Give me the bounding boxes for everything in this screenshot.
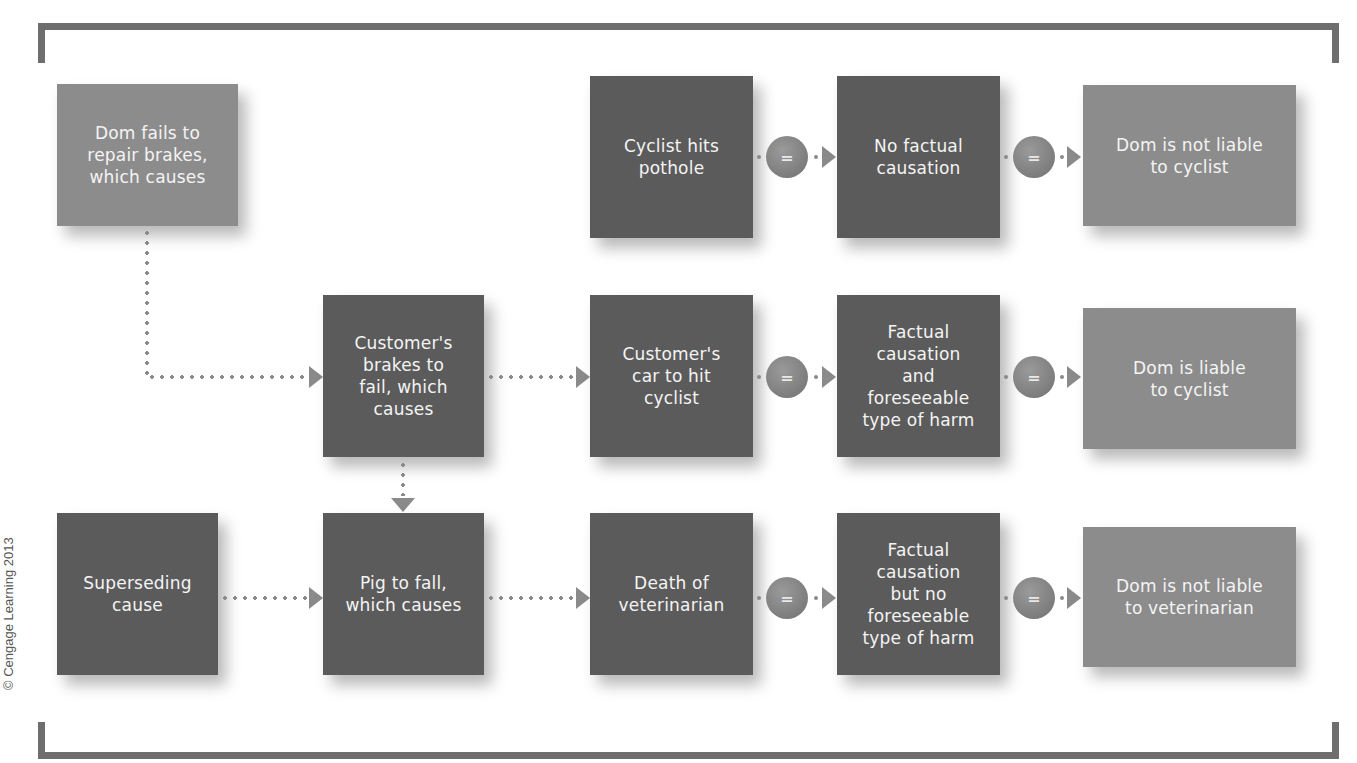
box-no-factual-causation: No factual causation (837, 76, 1000, 238)
connector-dot (814, 375, 818, 379)
connector-dot (814, 155, 818, 159)
box-label: Death of veterinarian (611, 572, 733, 616)
box-label: Dom is not liable to veterinarian (1108, 575, 1271, 619)
frame-bottom-right-corner (1332, 722, 1339, 759)
frame-bottom-bar (38, 752, 1339, 759)
frame-bottom-left-corner (38, 722, 45, 759)
box-cyclist-hits-pothole: Cyclist hits pothole (590, 76, 753, 238)
equals-icon: = (766, 356, 808, 398)
connector-brakes-to-car (486, 375, 574, 379)
box-customers-brakes-fail: Customer's brakes to fail, which causes (323, 295, 484, 457)
connector-dot (757, 375, 761, 379)
connector-dot (814, 596, 818, 600)
box-label: Cyclist hits pothole (616, 135, 727, 179)
connector-dot (1060, 596, 1064, 600)
equals-icon: = (1013, 136, 1055, 178)
box-label: Dom is liable to cyclist (1125, 357, 1254, 401)
box-dom-not-liable-cyclist: Dom is not liable to cyclist (1083, 85, 1296, 226)
connector-dot (757, 596, 761, 600)
box-factual-but-not-foreseeable: Factual causation but no foreseeable typ… (837, 513, 1000, 675)
connector-pig-to-death (486, 596, 574, 600)
box-label: Pig to fall, which causes (337, 572, 469, 616)
box-dom-not-liable-veterinarian: Dom is not liable to veterinarian (1083, 527, 1296, 667)
box-label: Dom is not liable to cyclist (1108, 134, 1271, 178)
arrow-right-icon (309, 366, 323, 388)
box-superseding-cause: Superseding cause (57, 513, 218, 675)
box-label: Factual causation but no foreseeable typ… (854, 539, 982, 649)
connector-superseding-to-pig (220, 596, 308, 600)
box-death-of-veterinarian: Death of veterinarian (590, 513, 753, 675)
arrow-down-icon (391, 498, 415, 512)
arrow-right-icon (822, 366, 836, 388)
box-label: Customer's car to hit cyclist (614, 343, 728, 409)
equals-icon: = (1013, 577, 1055, 619)
copyright-notice: © Cengage Learning 2013 (1, 537, 16, 690)
connector-dot (1004, 375, 1008, 379)
box-factual-and-foreseeable: Factual causation and foreseeable type o… (837, 295, 1000, 457)
arrow-right-icon (822, 146, 836, 168)
box-label: Dom fails to repair brakes, which causes (79, 122, 215, 188)
frame-top-bar (38, 23, 1339, 30)
box-customers-car-hits-cyclist: Customer's car to hit cyclist (590, 295, 753, 457)
connector-dot (1060, 155, 1064, 159)
arrow-right-icon (309, 587, 323, 609)
box-label: No factual causation (866, 135, 971, 179)
equals-icon: = (766, 577, 808, 619)
connector-brakes-down (401, 460, 405, 496)
box-label: Customer's brakes to fail, which causes (346, 332, 460, 420)
box-dom-liable-cyclist: Dom is liable to cyclist (1083, 308, 1296, 449)
box-pig-to-fall: Pig to fall, which causes (323, 513, 484, 675)
connector-start-right (147, 375, 307, 379)
box-label: Factual causation and foreseeable type o… (854, 321, 982, 431)
arrow-right-icon (1067, 366, 1081, 388)
arrow-right-icon (1067, 587, 1081, 609)
box-label: Superseding cause (75, 572, 199, 616)
connector-dot (1060, 375, 1064, 379)
equals-icon: = (766, 136, 808, 178)
connector-dot (1004, 596, 1008, 600)
arrow-right-icon (576, 587, 590, 609)
connector-start-down (145, 228, 149, 378)
equals-icon: = (1013, 356, 1055, 398)
connector-dot (757, 155, 761, 159)
frame-top-right-corner (1332, 23, 1339, 63)
box-dom-fails-to-repair: Dom fails to repair brakes, which causes (57, 84, 238, 226)
arrow-right-icon (576, 366, 590, 388)
arrow-right-icon (1067, 146, 1081, 168)
connector-dot (1004, 155, 1008, 159)
frame-top-left-corner (38, 23, 45, 63)
arrow-right-icon (822, 587, 836, 609)
